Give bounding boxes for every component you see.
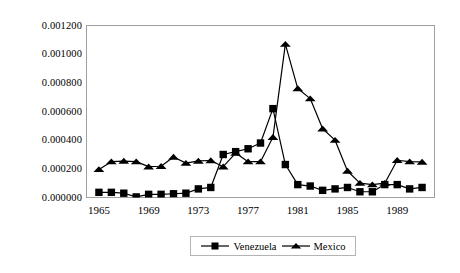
data-point-marker-square [212,242,219,249]
legend-item-venezuela[interactable]: Venezuela [200,240,276,252]
x-axis-tick-label: 1977 [225,204,271,216]
x-axis-tick-label: 1973 [175,204,221,216]
legend-label: Mexico [314,241,346,252]
legend-swatch-triangle-icon [281,240,311,252]
chart-figure: 0.0000000.0002000.0004000.0006000.000800… [0,0,460,273]
x-axis-tick-label: 1985 [325,204,371,216]
legend-item-mexico[interactable]: Mexico [281,240,346,252]
legend-label: Venezuela [233,241,276,252]
chart-legend: VenezuelaMexico [190,236,356,256]
x-axis-tick-label: 1989 [374,204,420,216]
x-axis-tick-label: 1969 [126,204,172,216]
legend-swatch-square-icon [200,240,230,252]
x-axis-tick-labels: 1965196919731977198119851989 [0,0,460,273]
x-axis-tick-label: 1981 [275,204,321,216]
x-axis-tick-label: 1965 [76,204,122,216]
